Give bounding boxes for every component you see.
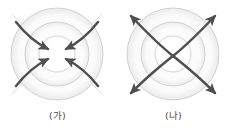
caption-ga: (가) (49, 111, 66, 121)
panel-na: (나) (116, 0, 231, 136)
diagram-ga (0, 0, 115, 110)
panel-ga: (가) (0, 0, 115, 136)
concentric-circles-outward-svg (116, 0, 231, 110)
figure-root: (가) (0, 0, 231, 136)
circle-inner-ga (39, 36, 75, 72)
concentric-circles-inward-svg (0, 0, 115, 110)
diagram-na (116, 0, 231, 110)
caption-na: (나) (165, 111, 182, 121)
